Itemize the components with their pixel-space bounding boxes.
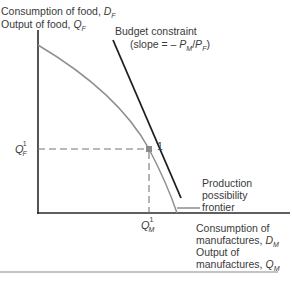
y-axis-title-output: Output of food, QF: [1, 18, 86, 30]
x-axis-title-line1: Consumption of: [196, 222, 270, 234]
ppf-curve: [38, 45, 177, 213]
y-axis-title-consumption: Consumption of food, DF: [1, 5, 116, 17]
x-axis-var: Q: [265, 258, 273, 270]
budget-slope-label: (slope = – PM/PF): [130, 38, 210, 50]
x-axis-title-line4: manufactures, QM: [196, 258, 279, 270]
budget-constraint-line: [113, 40, 181, 198]
x-axis-title-line2: manufactures, DM: [196, 234, 279, 246]
qm1-sup: 1: [149, 216, 153, 223]
qm1-sub: M: [149, 226, 155, 233]
x-axis-sub: M: [273, 241, 279, 248]
ppf-label-line3: frontier: [202, 201, 235, 213]
x-axis-var: D: [265, 234, 273, 246]
qm1-tick-label: QM1: [141, 219, 153, 231]
qf1-tick-label: QF1: [15, 143, 27, 155]
y-axis-sub: F: [82, 25, 86, 32]
budget-constraint-label: Budget constraint: [115, 25, 197, 37]
y-axis-var: Q: [73, 18, 81, 30]
x-axis-title-text: manufactures,: [196, 234, 265, 246]
point-1-label: 1: [157, 140, 163, 152]
ppf-label-line2: possibility: [202, 189, 248, 201]
y-axis-sub: F: [111, 12, 115, 19]
ppf-label-line1: Production: [202, 177, 252, 189]
y-axis-title-text: Consumption of food,: [1, 5, 104, 17]
slope-suffix: ): [206, 38, 210, 50]
bottom-divider: [0, 271, 278, 273]
x-axis-title-line3: Output of: [196, 246, 239, 258]
slope-prefix: (slope = –: [130, 38, 179, 50]
x-axis-title-text: manufactures,: [196, 258, 265, 270]
qf1-sub: F: [23, 150, 27, 157]
qf1-sup: 1: [23, 140, 27, 147]
y-axis-title-text: Output of food,: [1, 18, 73, 30]
equilibrium-point: [146, 146, 152, 152]
